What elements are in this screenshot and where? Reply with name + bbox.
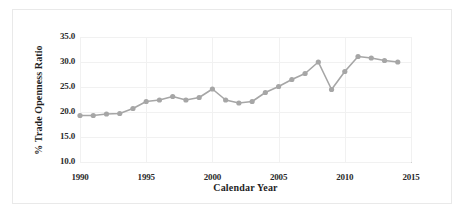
y-tick: 25.0 bbox=[39, 81, 75, 92]
data-point bbox=[250, 99, 255, 104]
data-point bbox=[130, 106, 135, 111]
data-point bbox=[223, 97, 228, 102]
plot-area bbox=[80, 37, 411, 162]
x-tick-label: 2000 bbox=[204, 172, 221, 182]
data-point bbox=[289, 77, 294, 82]
data-point bbox=[395, 59, 400, 64]
data-point bbox=[316, 59, 321, 64]
gridline-horizontal bbox=[80, 162, 411, 163]
y-tick: 15.0 bbox=[39, 131, 75, 142]
y-tick: 30.0 bbox=[39, 56, 75, 67]
y-tick-label: 30.0 bbox=[41, 56, 75, 66]
data-point bbox=[157, 97, 162, 102]
y-tick-label: 25.0 bbox=[41, 81, 75, 91]
data-point bbox=[77, 113, 82, 118]
data-point bbox=[342, 69, 347, 74]
x-tick-label: 2015 bbox=[402, 172, 419, 182]
chart-frame: % Trade Openness Ratio Calendar Year 10.… bbox=[12, 9, 452, 204]
data-point bbox=[183, 97, 188, 102]
data-point bbox=[117, 111, 122, 116]
data-point bbox=[382, 58, 387, 63]
y-tick-label: 10.0 bbox=[41, 156, 75, 166]
x-tick-label: 1990 bbox=[71, 172, 88, 182]
data-point bbox=[276, 84, 281, 89]
data-point bbox=[263, 90, 268, 95]
data-point bbox=[144, 99, 149, 104]
data-point bbox=[302, 71, 307, 76]
figure-container: % Trade Openness Ratio Calendar Year 10.… bbox=[0, 0, 464, 214]
gridline-vertical bbox=[411, 37, 412, 162]
y-axis-title: % Trade Openness Ratio bbox=[31, 32, 45, 167]
x-tick: 1995 bbox=[126, 166, 166, 184]
x-tick: 2000 bbox=[192, 166, 232, 184]
data-point bbox=[236, 100, 241, 105]
series-polyline bbox=[80, 57, 398, 116]
y-tick: 35.0 bbox=[39, 31, 75, 42]
y-tick-label: 15.0 bbox=[41, 131, 75, 141]
data-point bbox=[197, 95, 202, 100]
x-tick: 2010 bbox=[325, 166, 365, 184]
data-series-line bbox=[80, 37, 411, 162]
data-point bbox=[91, 113, 96, 118]
x-tick: 2005 bbox=[259, 166, 299, 184]
x-tick: 1990 bbox=[60, 166, 100, 184]
y-tick-label: 35.0 bbox=[41, 31, 75, 41]
x-tick-label: 2005 bbox=[270, 172, 287, 182]
y-tick-label: 20.0 bbox=[41, 106, 75, 116]
data-point bbox=[329, 87, 334, 92]
data-point bbox=[210, 86, 215, 91]
data-point bbox=[355, 54, 360, 59]
x-tick-label: 2010 bbox=[336, 172, 353, 182]
data-point bbox=[170, 94, 175, 99]
y-tick: 20.0 bbox=[39, 106, 75, 117]
data-point bbox=[369, 55, 374, 60]
x-tick-label: 1995 bbox=[138, 172, 155, 182]
data-point bbox=[104, 111, 109, 116]
x-tick: 2015 bbox=[391, 166, 431, 184]
